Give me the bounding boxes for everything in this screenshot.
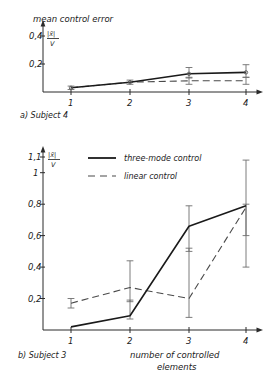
panel-a-ylabel-numerator: |x̄| bbox=[47, 30, 55, 38]
panel-b-xlabel-line-1: number of controlled bbox=[130, 350, 220, 360]
panel-b-ytick-label-2: 0,6 bbox=[28, 231, 42, 241]
legend-label-three-mode-control: three-mode control bbox=[124, 154, 202, 163]
panel-a-subject-4: mean control error 0,4 0,2 |x̄| V bbox=[20, 14, 263, 120]
figure-container: mean control error 0,4 0,2 |x̄| V bbox=[0, 0, 272, 383]
panel-b-series-linear-control-line bbox=[71, 207, 246, 303]
panel-b-ytick-label-0: 0,2 bbox=[28, 294, 42, 304]
panel-a-ytick-label-1: 0,4 bbox=[29, 31, 43, 41]
panel-b-xtick-label-2: 3 bbox=[186, 336, 191, 346]
panel-a-series-linear-control-line bbox=[71, 81, 246, 88]
panel-b-xtick-label-0: 1 bbox=[68, 336, 73, 346]
panel-b-series-three-mode-control-line bbox=[71, 206, 246, 327]
legend-label-linear-control: linear control bbox=[124, 172, 178, 181]
panel-a-caption: a) Subject 4 bbox=[20, 111, 68, 120]
panel-b-ylabel-denominator: V bbox=[51, 161, 56, 169]
panel-b-xtick-label-1: 2 bbox=[127, 336, 132, 346]
panel-a-xtick-label-3: 4 bbox=[243, 98, 248, 108]
panel-b-subject-3: 0,2 0,4 0,6 0,8 1 1,1 |x̄| V 1 2 3 4 bbox=[18, 146, 263, 372]
legend: three-mode control linear control bbox=[88, 154, 202, 181]
panel-a-xtick-label-1: 2 bbox=[127, 98, 132, 108]
panel-a-ylabel-denominator: V bbox=[50, 40, 55, 48]
panel-a-xtick-label-0: 1 bbox=[68, 98, 73, 108]
panel-a-xtick-label-2: 3 bbox=[186, 98, 191, 108]
panel-a-series-three-mode-control-line bbox=[71, 72, 246, 87]
panel-b-x-axis-arrow bbox=[257, 328, 264, 333]
panel-b-errorbars-linear bbox=[68, 204, 250, 317]
panel-b-caption: b) Subject 3 bbox=[18, 351, 66, 360]
panel-b-ytick-label-1: 0,4 bbox=[28, 262, 42, 272]
panel-b-xtick-label-3: 4 bbox=[243, 336, 248, 346]
panel-a-title: mean control error bbox=[33, 14, 114, 24]
panel-b-ytick-label-3: 0,8 bbox=[28, 199, 42, 209]
panel-b-ylabel-numerator: |x̄| bbox=[48, 151, 56, 159]
figure-svg: mean control error 0,4 0,2 |x̄| V bbox=[0, 0, 272, 383]
panel-a-ylabel-fraction: |x̄| V bbox=[47, 30, 59, 48]
panel-b-ylabel-fraction: |x̄| V bbox=[48, 151, 60, 169]
panel-b-errorbars-three-mode bbox=[127, 160, 250, 319]
panel-a-ytick-label-0: 0,2 bbox=[29, 59, 43, 69]
panel-b-ytick-label-4: 1 bbox=[33, 168, 38, 178]
panel-b-ytick-label-5: 1,1 bbox=[28, 152, 42, 162]
panel-a-x-axis-arrow bbox=[257, 90, 264, 95]
panel-b-xlabel-line-2: elements bbox=[157, 362, 197, 372]
